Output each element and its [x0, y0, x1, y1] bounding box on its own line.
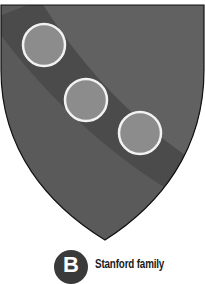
roundel-3 [119, 112, 161, 154]
badge-letter: B [54, 254, 88, 276]
caption: Stanford family [95, 257, 164, 271]
roundel-1 [23, 24, 65, 66]
coat-of-arms-shield [0, 0, 205, 245]
shield-graphic [0, 0, 205, 245]
roundel-2 [65, 79, 107, 121]
badge-icon: B [54, 250, 88, 284]
